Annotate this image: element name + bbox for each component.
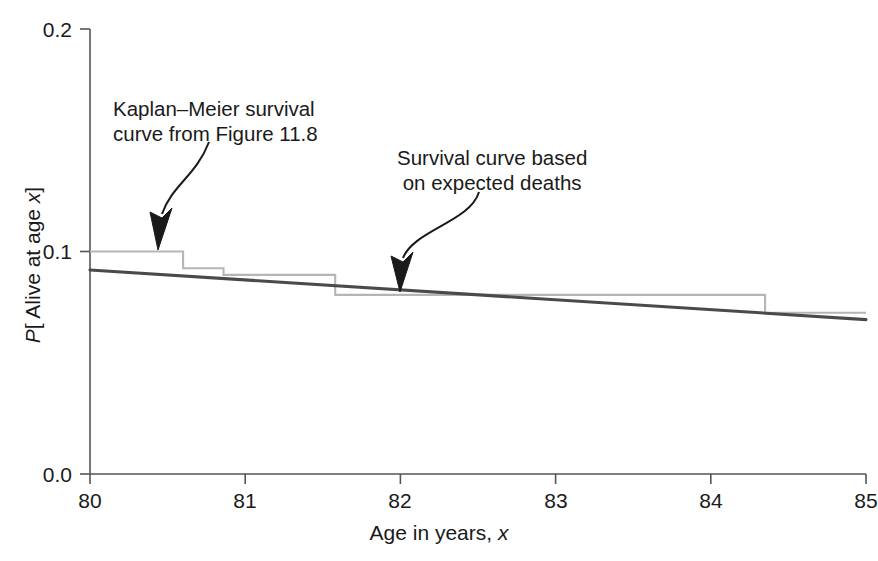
y-axis-title: P[ Alive at age x]	[21, 150, 45, 380]
km-annotation-line-1: Kaplan–Meier survival	[113, 96, 318, 121]
x-tick-label-85: 85	[836, 489, 878, 513]
y-axis-title-prefix: P	[21, 329, 44, 343]
x-axis-title: Age in years, x	[0, 521, 878, 545]
y-axis-title-mid: [ Alive at age	[21, 203, 44, 329]
x-tick-label-83: 83	[526, 489, 586, 513]
survival-curve-figure: 0.2 0.1 0.0 80 81 82 83 84 85 P[ Alive a…	[0, 0, 878, 561]
x-tick-marks	[90, 474, 866, 484]
x-tick-label-82: 82	[370, 489, 430, 513]
y-tick-marks	[80, 29, 90, 474]
y-axis-title-suffix: ]	[21, 187, 44, 193]
y-tick-label-2: 0.0	[8, 463, 72, 487]
expected-annotation-arrowhead	[391, 252, 413, 292]
expected-annotation-text: Survival curve based on expected deaths	[397, 145, 587, 195]
expected-annotation-line-2: on expected deaths	[397, 170, 587, 195]
x-axis-title-text: Age in years,	[370, 521, 498, 544]
plot-canvas	[0, 0, 878, 561]
y-axis-title-variable: x	[21, 193, 44, 204]
km-annotation-text: Kaplan–Meier survival curve from Figure …	[113, 96, 318, 146]
km-annotation-arrow	[162, 142, 209, 214]
y-tick-label-0: 0.2	[8, 18, 72, 42]
x-tick-label-81: 81	[215, 489, 275, 513]
expected-annotation-arrow	[403, 192, 479, 258]
x-axis-title-variable: x	[498, 521, 509, 544]
km-annotation-arrowhead	[150, 208, 172, 250]
km-annotation-line-2: curve from Figure 11.8	[113, 121, 318, 146]
expected-annotation-line-1: Survival curve based	[397, 145, 587, 170]
kaplan-meier-step-curve	[90, 252, 866, 313]
x-tick-label-80: 80	[60, 489, 120, 513]
x-tick-label-84: 84	[681, 489, 741, 513]
